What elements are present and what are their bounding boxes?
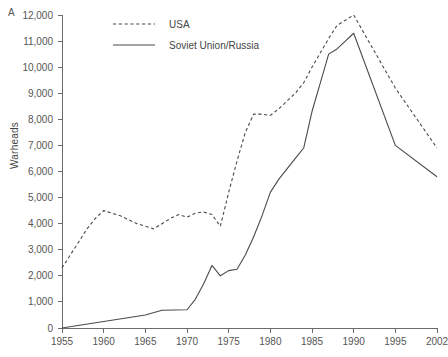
chart-figure: A Warheads 01,0002,0003,0004,0005,0006,0… <box>0 0 448 357</box>
x-tick-label: 1970 <box>176 336 199 347</box>
y-tick-label: 3,000 <box>28 244 53 255</box>
x-tick-label: 1985 <box>301 336 324 347</box>
y-tick-label: 4,000 <box>28 218 53 229</box>
x-tick-label: 1975 <box>218 336 241 347</box>
x-tick-label: 1990 <box>343 336 366 347</box>
y-tick-label: 6,000 <box>28 166 53 177</box>
y-tick-label: 0 <box>47 323 53 334</box>
legend-label: USA <box>169 19 190 30</box>
x-axis-ticks: 1955196019651970197519801985199019952002 <box>51 328 448 347</box>
x-tick-label: 1995 <box>384 336 407 347</box>
legend-label: Soviet Union/Russia <box>169 40 259 51</box>
y-tick-label: 11,000 <box>23 36 53 47</box>
y-tick-label: 2,000 <box>28 270 53 281</box>
y-tick-label: 10,000 <box>22 62 53 73</box>
series-line-usa <box>62 15 437 268</box>
x-tick-label: 2002 <box>426 336 448 347</box>
x-tick-label: 1960 <box>93 336 116 347</box>
y-tick-label: 1,000 <box>28 296 53 307</box>
series-line-soviet-union-russia <box>62 33 437 328</box>
chart-legend: USASoviet Union/Russia <box>113 19 259 51</box>
data-series <box>62 15 437 328</box>
y-tick-label: 8,000 <box>28 114 53 125</box>
y-tick-label: 7,000 <box>28 140 53 151</box>
chart-canvas: 01,0002,0003,0004,0005,0006,0007,0008,00… <box>0 0 448 357</box>
y-axis-ticks: 01,0002,0003,0004,0005,0006,0007,0008,00… <box>22 10 62 334</box>
x-tick-label: 1955 <box>51 336 74 347</box>
x-tick-label: 1965 <box>134 336 157 347</box>
y-tick-label: 9,000 <box>28 88 53 99</box>
x-tick-label: 1980 <box>259 336 282 347</box>
y-tick-label: 5,000 <box>28 192 53 203</box>
y-tick-label: 12,000 <box>22 10 53 21</box>
